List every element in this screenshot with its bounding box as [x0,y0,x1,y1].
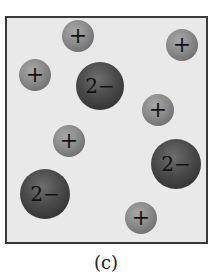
charge-label: 2− [85,76,114,96]
cation-ion: + [125,202,157,234]
cation-ion: + [166,29,198,61]
anion-ion: 2− [76,62,124,110]
anion-ion: 2− [151,139,201,189]
charge-label: + [173,34,191,56]
figure-caption: (c) [0,252,212,273]
cation-ion: + [62,20,94,52]
charge-label: 2− [161,154,190,174]
cation-ion: + [142,94,174,126]
anion-ion: 2− [20,169,70,219]
cation-ion: + [19,59,51,91]
cation-ion: + [53,125,85,157]
charge-label: 2− [30,184,59,204]
charge-label: + [149,99,167,121]
charge-label: + [132,207,150,229]
charge-label: + [69,25,87,47]
charge-label: + [26,64,44,86]
charge-label: + [60,130,78,152]
